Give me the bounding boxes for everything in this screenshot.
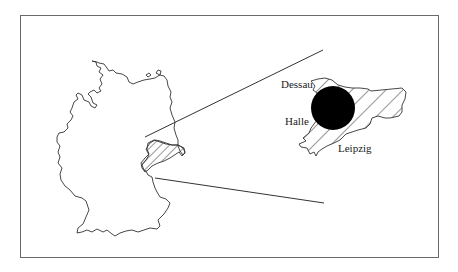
connector-line-bottom [155, 178, 324, 203]
city-label-halle: Halle [285, 115, 309, 127]
area-marker [311, 86, 355, 130]
highlighted-region [141, 140, 185, 172]
figure-frame [21, 16, 439, 258]
city-label-dessau: Dessau [281, 78, 313, 90]
map-figure: Dessau Halle Leipzig [0, 0, 458, 272]
city-label-leipzig: Leipzig [338, 142, 372, 154]
